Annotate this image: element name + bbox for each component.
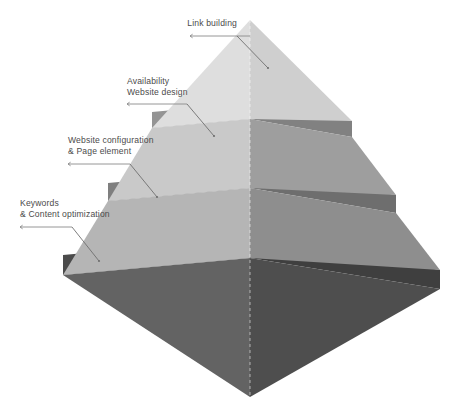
label-keywords-line2: & Content optimization <box>20 209 110 220</box>
label-link-building: Link building <box>129 18 237 29</box>
layer4-left-face <box>63 258 250 397</box>
label-website-configuration-line1: Website configuration <box>68 135 154 145</box>
label-keywords-content-optimization: Keywords & Content optimization <box>20 198 110 220</box>
layer1-right-face <box>250 20 352 121</box>
label-website-configuration-page-element: Website configuration & Page element <box>68 135 154 157</box>
layer2-left-face <box>108 119 250 201</box>
pyramid-layer-link-building <box>152 20 352 128</box>
label-availability-line1: Availability <box>127 76 169 86</box>
label-availability-website-design: Availability Website design <box>127 76 188 98</box>
label-availability-line2: Website design <box>127 87 188 98</box>
label-website-configuration-line2: & Page element <box>68 146 154 157</box>
label-keywords-line1: Keywords <box>20 198 59 208</box>
seo-pyramid-diagram: Link building Availability Website desig… <box>0 0 471 411</box>
label-link-building-line1: Link building <box>187 18 237 28</box>
